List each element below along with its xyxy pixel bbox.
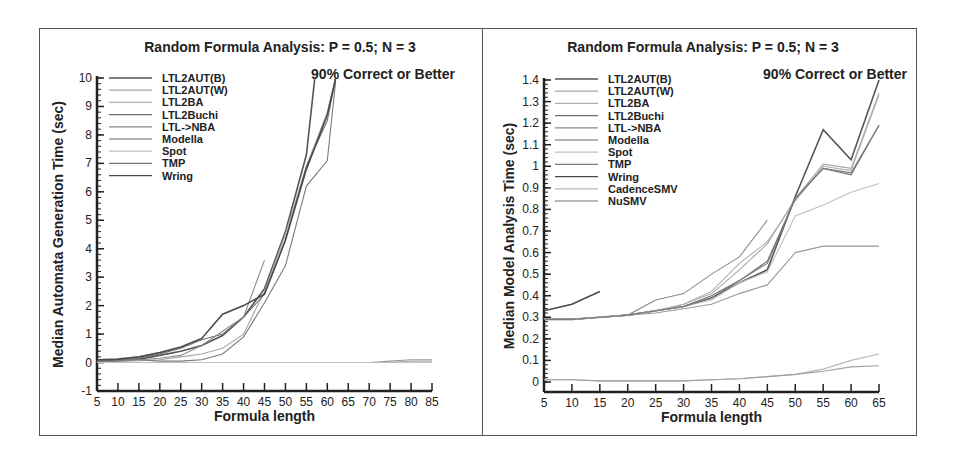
x-tick-label: 25 bbox=[649, 396, 663, 410]
series-line-nusmv bbox=[544, 366, 879, 381]
y-tick-label: 9 bbox=[85, 99, 92, 113]
y-tick-label: 8 bbox=[85, 128, 92, 142]
y-tick-label: 1.2 bbox=[522, 116, 539, 130]
x-tick-label: 75 bbox=[383, 395, 397, 409]
legend: LTL2AUT(B)LTL2AUT(W)LTL2BALTL2BuchiLTL->… bbox=[555, 73, 678, 207]
x-tick-label: 65 bbox=[342, 395, 356, 409]
x-tick-label: 20 bbox=[621, 396, 635, 410]
x-tick-label: 35 bbox=[216, 395, 230, 409]
chart-title: Random Formula Analysis: P = 0.5; N = 3 bbox=[144, 39, 416, 55]
x-tick-label: 60 bbox=[844, 396, 858, 410]
x-tick-label: 55 bbox=[300, 395, 314, 409]
legend-entry: Spot bbox=[608, 146, 633, 158]
y-tick-label: 1 bbox=[532, 159, 539, 173]
legend-entry: CadenceSMV bbox=[608, 183, 678, 195]
series-line-wring bbox=[544, 291, 600, 310]
x-tick-label: 20 bbox=[153, 395, 167, 409]
x-tick-label: 5 bbox=[541, 396, 548, 410]
right-chart-frame: Random Formula Analysis: P = 0.5; N = 39… bbox=[482, 28, 917, 436]
y-tick-label: -1 bbox=[81, 384, 92, 398]
legend-entry: Wring bbox=[162, 170, 193, 182]
series-line-cadencesmv bbox=[544, 354, 879, 381]
y-tick-label: 0.5 bbox=[522, 267, 539, 281]
y-tick-label: 0.8 bbox=[522, 202, 539, 216]
x-tick-label: 45 bbox=[761, 396, 775, 410]
legend-entry: LTL->NBA bbox=[608, 122, 661, 134]
legend-entry: Modella bbox=[162, 133, 204, 145]
y-tick-label: 1 bbox=[85, 327, 92, 341]
y-tick-label: 5 bbox=[85, 213, 92, 227]
x-tick-label: 10 bbox=[111, 395, 125, 409]
y-tick-label: 0.2 bbox=[522, 332, 539, 346]
series-lines bbox=[97, 78, 432, 363]
chart-title: Random Formula Analysis: P = 0.5; N = 3 bbox=[567, 39, 839, 55]
y-tick-label: 1.1 bbox=[522, 138, 539, 152]
x-tick-label: 30 bbox=[677, 396, 691, 410]
x-tick-label: 25 bbox=[174, 395, 188, 409]
x-tick-label: 10 bbox=[565, 396, 579, 410]
y-tick-label: 7 bbox=[85, 156, 92, 170]
x-tick-label: 70 bbox=[363, 395, 377, 409]
model-analysis-chart: Random Formula Analysis: P = 0.5; N = 39… bbox=[483, 29, 918, 437]
legend-entry: TMP bbox=[162, 157, 185, 169]
legend-entry: LTL->NBA bbox=[162, 121, 215, 133]
series-line-ltl2ba bbox=[544, 95, 879, 319]
series-line-tmp bbox=[97, 81, 336, 361]
x-tick-label: 50 bbox=[789, 396, 803, 410]
y-tick-label: 1.3 bbox=[522, 95, 539, 109]
legend-entry: LTL2Buchi bbox=[608, 110, 664, 122]
series-lines bbox=[544, 80, 879, 381]
x-tick-label: 50 bbox=[279, 395, 293, 409]
series-line-ltl2buchi bbox=[544, 125, 879, 319]
x-axis-label: Formula length bbox=[661, 409, 762, 425]
x-tick-label: 15 bbox=[593, 396, 607, 410]
y-tick-label: 0.9 bbox=[522, 181, 539, 195]
series-line-ltl2aut-w- bbox=[544, 93, 879, 320]
y-axis-label: Median Model Analysis Time (sec) bbox=[501, 123, 517, 349]
y-tick-label: 0.1 bbox=[522, 353, 539, 367]
y-tick-label: 0.3 bbox=[522, 310, 539, 324]
x-tick-label: 30 bbox=[195, 395, 209, 409]
y-tick-label: 10 bbox=[79, 71, 93, 85]
legend: LTL2AUT(B)LTL2AUT(W)LTL2BALTL2BuchiLTL->… bbox=[109, 72, 228, 182]
series-line-spot bbox=[544, 184, 879, 320]
x-tick-label: 80 bbox=[404, 395, 418, 409]
series-line-ltl-nba bbox=[544, 220, 767, 319]
x-tick-label: 35 bbox=[705, 396, 719, 410]
x-tick-label: 85 bbox=[425, 395, 439, 409]
legend-entry: LTL2AUT(W) bbox=[162, 84, 228, 96]
legend-entry: TMP bbox=[608, 158, 631, 170]
legend-entry: NuSMV bbox=[608, 195, 647, 207]
y-tick-label: 0.6 bbox=[522, 246, 539, 260]
y-tick-label: 3 bbox=[85, 270, 92, 284]
x-tick-label: 60 bbox=[321, 395, 335, 409]
chart-annotation: 90% Correct or Better bbox=[311, 66, 455, 82]
y-tick-label: 0 bbox=[85, 356, 92, 370]
legend-entry: Spot bbox=[162, 145, 187, 157]
y-axis-label: Median Automata Generation Time (sec) bbox=[50, 101, 66, 368]
x-tick-label: 55 bbox=[816, 396, 830, 410]
chart-annotation: 90% Correct or Better bbox=[763, 66, 907, 82]
y-tick-label: 0 bbox=[532, 375, 539, 389]
y-tick-label: 1.4 bbox=[522, 73, 539, 87]
y-tick-label: 4 bbox=[85, 242, 92, 256]
y-tick-label: 2 bbox=[85, 299, 92, 313]
legend-entry: LTL2AUT(W) bbox=[608, 85, 674, 97]
x-tick-label: 40 bbox=[237, 395, 251, 409]
y-tick-label: 0.4 bbox=[522, 289, 539, 303]
legend-entry: Wring bbox=[608, 171, 639, 183]
x-tick-label: 15 bbox=[132, 395, 146, 409]
legend-entry: LTL2AUT(B) bbox=[162, 72, 226, 84]
legend-entry: LTL2AUT(B) bbox=[608, 73, 672, 85]
legend-entry: LTL2Buchi bbox=[162, 109, 218, 121]
legend-entry: Modella bbox=[608, 134, 650, 146]
y-tick-label: 6 bbox=[85, 185, 92, 199]
x-tick-label: 40 bbox=[733, 396, 747, 410]
x-tick-label: 65 bbox=[872, 396, 886, 410]
left-chart-frame: Random Formula Analysis: P = 0.5; N = 39… bbox=[39, 28, 483, 436]
x-tick-label: 45 bbox=[258, 395, 272, 409]
y-tick-label: 0.7 bbox=[522, 224, 539, 238]
series-line-tmp bbox=[544, 125, 879, 319]
x-tick-label: 5 bbox=[94, 395, 101, 409]
automata-generation-chart: Random Formula Analysis: P = 0.5; N = 39… bbox=[40, 29, 484, 437]
